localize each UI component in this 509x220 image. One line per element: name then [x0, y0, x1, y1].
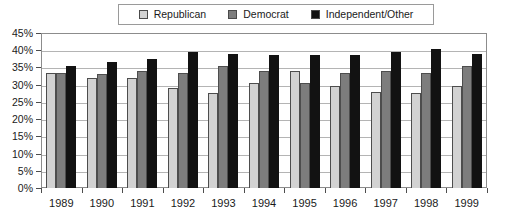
bar	[310, 55, 320, 188]
bar	[127, 78, 137, 188]
bar	[249, 83, 259, 188]
bar	[259, 71, 269, 188]
x-tick-mark	[203, 188, 204, 193]
x-tick-label: 1990	[82, 197, 123, 210]
y-tick-label: 5%	[18, 166, 33, 176]
x-tick-mark	[41, 188, 42, 193]
x-tick-mark	[487, 188, 488, 193]
bar	[340, 73, 350, 188]
x-tick-mark	[82, 188, 83, 193]
y-tick-label: 20%	[12, 114, 33, 124]
bar	[411, 93, 421, 188]
bar	[330, 86, 340, 188]
x-tick-mark	[406, 188, 407, 193]
bar-group	[284, 33, 325, 188]
bar	[107, 62, 117, 188]
bar-group	[365, 33, 406, 188]
bar	[421, 73, 431, 188]
x-tick-label: 1995	[284, 197, 325, 210]
x-tick-label: 1993	[203, 197, 244, 210]
x-tick-mark	[446, 188, 447, 193]
bar	[56, 73, 66, 188]
x-tick-mark	[244, 188, 245, 193]
bar-group	[406, 33, 447, 188]
bar	[208, 93, 218, 188]
bar-group	[41, 33, 82, 188]
x-tick-label: 1997	[365, 197, 406, 210]
bar-chart: Republican Democrat Independent/Other 0%…	[0, 0, 509, 220]
legend-swatch-independent-other	[311, 10, 320, 19]
bar	[147, 59, 157, 188]
legend-swatch-republican	[139, 10, 148, 19]
bar-group	[446, 33, 487, 188]
bar	[269, 55, 279, 188]
x-axis: 1989199019911992199319941995199619971998…	[41, 188, 487, 218]
y-tick-label: 15%	[12, 131, 33, 141]
x-tick-label: 1991	[122, 197, 163, 210]
y-tick-label: 25%	[12, 97, 33, 107]
legend-item-republican: Republican	[139, 9, 207, 20]
y-tick-label: 40%	[12, 45, 33, 55]
legend-label-independent-other: Independent/Other	[326, 9, 414, 20]
bar	[290, 71, 300, 188]
bar	[228, 54, 238, 188]
bar	[472, 54, 482, 188]
bar	[168, 88, 178, 188]
x-tick-label: 1992	[163, 197, 204, 210]
legend-swatch-democrat	[228, 10, 237, 19]
bar	[371, 92, 381, 188]
bar-group	[325, 33, 366, 188]
bar	[462, 66, 472, 188]
bar-groups	[41, 33, 487, 188]
bar	[350, 55, 360, 188]
bar	[188, 52, 198, 188]
x-tick-label: 1999	[446, 197, 487, 210]
x-tick-mark	[365, 188, 366, 193]
legend-item-independent-other: Independent/Other	[311, 9, 414, 20]
bar	[87, 78, 97, 188]
x-tick-label: 1989	[41, 197, 82, 210]
bar	[97, 74, 107, 188]
bar-group	[244, 33, 285, 188]
bar	[137, 71, 147, 188]
legend-label-republican: Republican	[154, 9, 207, 20]
y-tick-label: 0%	[18, 183, 33, 193]
y-tick-label: 30%	[12, 80, 33, 90]
y-tick-label: 10%	[12, 149, 33, 159]
y-tick-label: 45%	[12, 28, 33, 38]
bar-group	[122, 33, 163, 188]
bar-group	[82, 33, 123, 188]
bar	[46, 73, 56, 188]
bar	[381, 71, 391, 188]
x-axis-labels: 1989199019911992199319941995199619971998…	[41, 197, 487, 210]
y-axis: 0%5%10%15%20%25%30%35%40%45%	[0, 33, 41, 188]
y-tick-label: 35%	[12, 62, 33, 72]
legend-item-democrat: Democrat	[228, 9, 289, 20]
bar	[218, 66, 228, 188]
bar	[300, 83, 310, 188]
x-tick-mark	[122, 188, 123, 193]
x-tick-mark	[325, 188, 326, 193]
bar-group	[163, 33, 204, 188]
legend-label-democrat: Democrat	[243, 9, 289, 20]
chart-legend: Republican Democrat Independent/Other	[118, 4, 434, 25]
x-tick-label: 1998	[406, 197, 447, 210]
bar-group	[203, 33, 244, 188]
bar	[178, 73, 188, 188]
bar	[66, 66, 76, 188]
x-tick-label: 1994	[244, 197, 285, 210]
bar	[391, 52, 401, 188]
x-tick-label: 1996	[325, 197, 366, 210]
x-tick-mark	[284, 188, 285, 193]
x-tick-mark	[163, 188, 164, 193]
bar	[452, 86, 462, 188]
bar	[431, 49, 441, 189]
